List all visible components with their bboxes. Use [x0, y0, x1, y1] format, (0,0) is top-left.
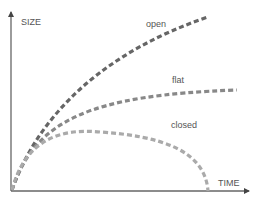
- growth-diagram: [0, 0, 256, 202]
- x-axis-label: TIME: [218, 179, 240, 188]
- open-label: open: [146, 20, 166, 29]
- closed-label: closed: [171, 121, 197, 130]
- y-axis-label: SIZE: [21, 18, 41, 27]
- flat-label: flat: [172, 76, 184, 85]
